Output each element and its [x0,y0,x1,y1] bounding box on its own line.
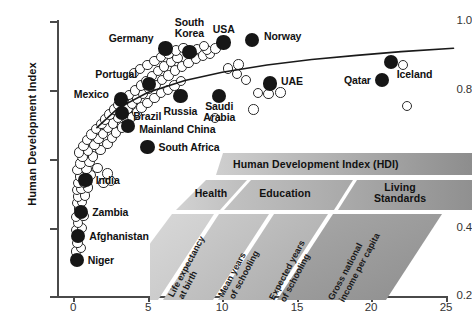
data-point-south-africa [140,140,154,154]
point-label-germany: Germany [109,33,154,44]
point-label-zambia: Zambia [92,207,128,218]
scatter-plot-area: GermanySouthKoreaUSANorwayPortugalMexico… [0,0,472,333]
data-point-qatar [375,73,389,87]
point-label-mainland-china: Mainland China [139,124,215,135]
point-label-usa: USA [207,24,241,35]
point-label-niger: Niger [88,255,114,266]
point-label-mexico: Mexico [74,89,109,100]
point-label-qatar: Qatar [344,75,371,86]
data-point-india [78,173,92,187]
point-label-saudi-arabia: Saudi [196,101,242,112]
point-label-uae: UAE [281,76,303,87]
data-point-uae [263,76,277,90]
point-label-norway: Norway [264,31,301,42]
point-label-south-africa: South Africa [159,142,220,153]
point-label-india: India [96,175,120,186]
data-point-germany [158,41,172,55]
data-point-south-korea [182,45,196,59]
data-point-russia [173,89,187,103]
point-label-afghanistan: Afghanistan [89,231,149,242]
data-point-mexico [114,92,128,106]
point-label-saudi-arabia: Arabia [196,112,242,123]
chart-figure: Human Development Index 1.0 0.8 0.6 0.4 … [0,0,472,333]
trend-curve [0,0,472,333]
data-point-usa [216,35,230,49]
data-point-niger [70,253,84,267]
point-label-iceland: Iceland [397,69,432,80]
point-label-portugal: Portugal [95,69,137,80]
